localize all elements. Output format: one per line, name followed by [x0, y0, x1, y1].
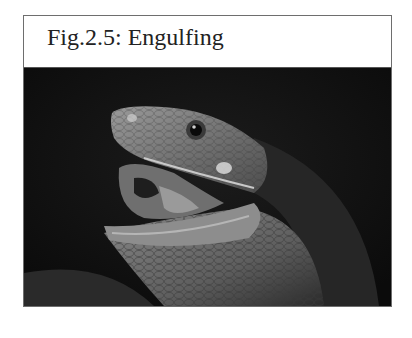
- figure-caption: Fig.2.5: Engulfing: [47, 24, 224, 51]
- snake-image-icon: [24, 68, 391, 306]
- figure-caption-box: Fig.2.5: Engulfing: [24, 16, 391, 68]
- snake-photo: [24, 68, 391, 306]
- figure-frame: Fig.2.5: Engulfing: [23, 15, 392, 307]
